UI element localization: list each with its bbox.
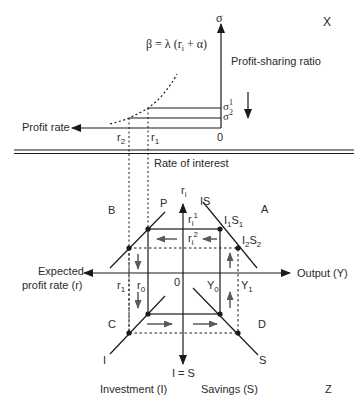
top-origin-label: 0 [217,132,223,143]
corner-label-x: X [323,16,331,28]
i2s2-label: I2S2 [242,235,261,246]
rate-of-interest-label: Rate of interest [154,158,229,169]
ri1-sup: 1 [193,211,197,220]
bottom-panel [84,202,290,364]
ri2-sub: i [192,238,194,247]
p-curve-label: P [160,198,167,209]
sigma2-sup: 2 [229,108,233,117]
point-d2 [235,330,240,335]
savings-curve [193,288,258,355]
r0-sub: 0 [141,285,145,294]
curve-formula-tail: + α) [184,37,207,51]
sigma-axis-label: σ [216,12,222,24]
s-curve-label: S [259,355,266,366]
quadrant-c-label: C [108,319,116,330]
beta-curve [110,74,177,124]
quadrant-a-label: A [261,204,268,215]
initial-equilibrium-rect [148,229,220,314]
y0-label: Y0 [207,280,219,291]
profit-rate-label: Profit rate [22,122,70,133]
ri2-label: ri2 [188,233,198,244]
i-equals-s-label: I = S [172,368,195,379]
point-p1 [145,226,150,231]
i1s1-label: I1S1 [224,215,243,226]
expected-label-line1: Expected [38,266,84,277]
y1-label: Y1 [241,280,253,291]
corner-label-z: Z [325,384,332,395]
ri-axis-label: ri [181,185,186,196]
curve-formula-main: β = λ (r [146,37,182,51]
investment-label: Investment (I) [100,384,167,395]
sigma1-sup: 1 [229,98,233,107]
y1-sub: 1 [248,285,252,294]
ri1-label: ri1 [188,214,198,225]
s2-symbol: S [250,234,257,246]
point-i1s1 [217,226,222,231]
s2-sub: 2 [257,240,261,249]
i-curve-label: I [103,355,106,366]
r1-bottom-label: r1 [117,280,125,291]
ri2-sup: 2 [193,230,197,239]
output-axis-label: Output (Y) [297,268,348,279]
profit-sharing-ratio-label: Profit-sharing ratio [231,56,321,67]
ri-sub: i [185,190,187,199]
sigma2-label: σ2 [223,111,233,122]
point-d1 [217,311,222,316]
expected-label-line2: profit rate (r) [22,280,83,291]
diagram-canvas: σ X β = λ (ri + α) Profit-sharing ratio … [0,0,362,405]
point-c2 [126,330,131,335]
r2-sub: 2 [121,137,125,146]
y0-sub: 0 [214,285,218,294]
r0-label: r0 [137,280,145,291]
curve-formula: β = λ (ri + α) [146,38,207,50]
point-p2 [126,245,131,250]
quadrant-b-label: B [108,205,115,216]
savings-label: Savings (S) [201,384,258,395]
s1-sub: 1 [239,220,243,229]
quadrant-d-label: D [258,319,266,330]
point-c1 [145,311,150,316]
ri1-sub: i [192,219,194,228]
r2-label: r2 [117,132,125,143]
bottom-origin-label: 0 [174,277,180,288]
s1-symbol: S [232,214,239,226]
point-i2s2 [235,245,240,250]
r1-sub: 1 [155,137,159,146]
r1-label: r1 [151,132,159,143]
r1b-sub: 1 [121,285,125,294]
is-curve-label: IS [200,196,210,207]
